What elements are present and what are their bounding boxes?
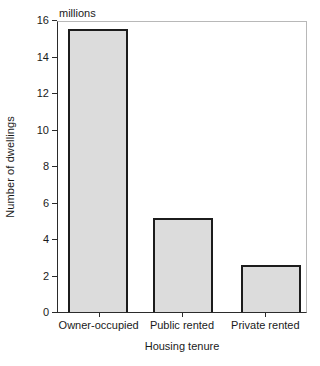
y-axis-title: Number of dwellings [2,21,18,313]
x-axis-label-private-rented: Private rented [224,318,307,332]
y-tick-label: 8 [43,160,49,173]
y-tick-label: 16 [37,14,49,27]
x-axis-title: Housing tenure [57,339,307,353]
x-tick-mark [182,313,183,317]
bar-owner-occupied [68,29,128,312]
y-tick-label: 4 [43,233,49,246]
y-tick-label: 0 [43,306,49,319]
bar-private-rented [241,265,301,312]
y-tick-label: 6 [43,197,49,210]
x-tick-mark [265,313,266,317]
bar-public-rented [153,218,213,312]
x-axis-label-public-rented: Public rented [140,318,223,332]
y-tick-label: 14 [37,51,49,64]
y-tick-label: 2 [43,270,49,283]
bar-chart: Number of dwellings millions 02468101214… [0,0,320,366]
y-tick-label: 10 [37,124,49,137]
y-tick-label: 12 [37,87,49,100]
x-tick-mark [99,313,100,317]
y-axis-unit-label: millions [59,7,96,19]
plot-area [57,21,307,313]
x-axis-label-owner-occupied: Owner-occupied [57,318,140,332]
